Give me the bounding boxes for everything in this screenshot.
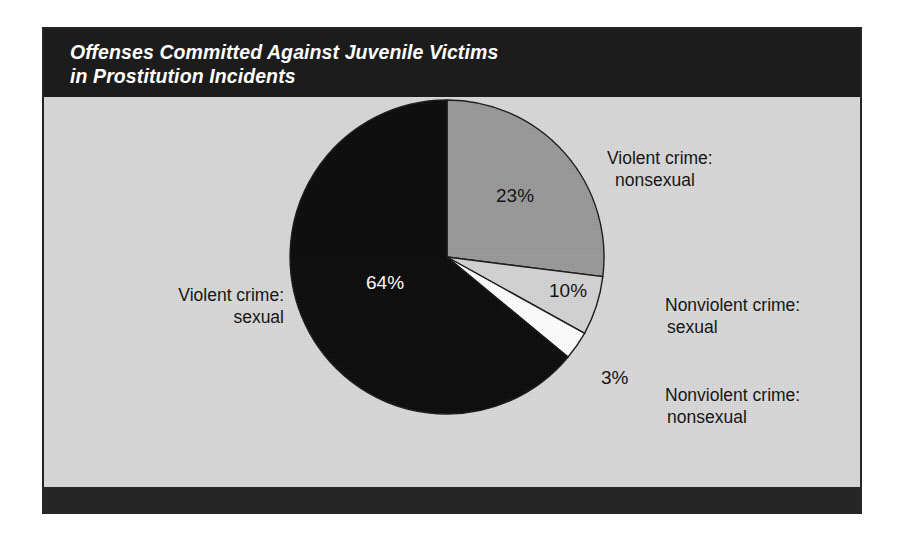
pie-value-label-nonviolent-sexual: 10% (549, 280, 587, 302)
title-bar: Offenses Committed Against Juvenile Vict… (44, 29, 860, 97)
callout-line-2: nonsexual (607, 169, 713, 191)
callout-line-1: Violent crime: (178, 285, 284, 305)
pie-value-label-violent-sexual: 64% (366, 272, 404, 294)
pie-callout-nonviolent-sexual: Nonviolent crime: sexual (665, 272, 800, 360)
pie-value-label-nonviolent-nonsexual: 3% (601, 367, 628, 389)
callout-line-1: Nonviolent crime: (665, 295, 800, 315)
pie-callout-nonviolent-nonsexual: Nonviolent crime: nonsexual (665, 362, 800, 450)
pie-callout-violent-sexual: Violent crime: sexual (132, 262, 284, 350)
chart-plot-area: 23% 10% 3% 64% Violent crime: nonsexual … (44, 97, 860, 487)
pie-value-label-violent-nonsexual: 23% (496, 185, 534, 207)
callout-line-2: sexual (132, 306, 284, 328)
figure-container: Offenses Committed Against Juvenile Vict… (42, 27, 864, 516)
callout-line-1: Nonviolent crime: (665, 385, 800, 405)
callout-line-2: nonsexual (665, 406, 800, 428)
pie-callout-violent-nonsexual: Violent crime: nonsexual (607, 125, 713, 213)
bottom-bar (44, 487, 860, 512)
figure-title: Offenses Committed Against Juvenile Vict… (70, 40, 860, 88)
callout-line-2: sexual (665, 316, 800, 338)
callout-line-1: Violent crime: (607, 148, 713, 168)
